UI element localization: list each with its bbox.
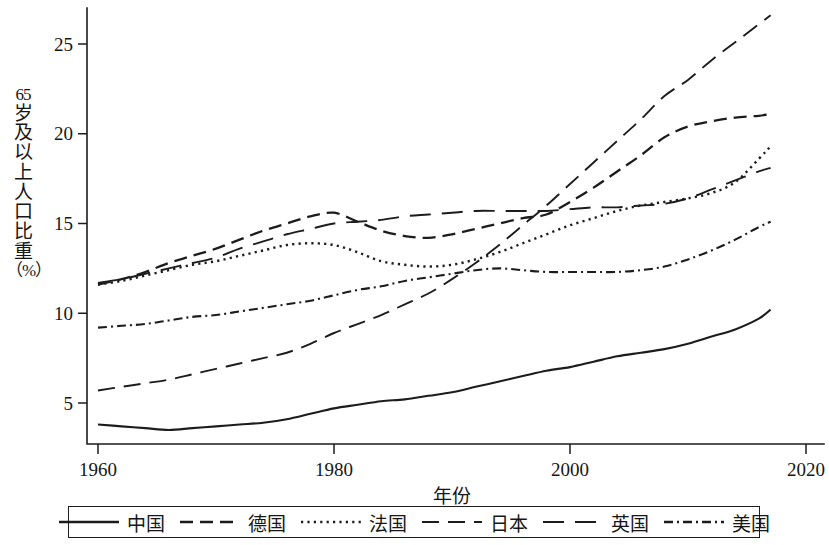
axis-lines [87,8,824,444]
y-tick-label: 25 [54,34,73,55]
chart-figure: 5101520251960198020002020年份 65岁及以上人口比重（%… [0,0,829,545]
y-axis-title-char: 重 [6,242,40,262]
legend-label: 中国 [127,509,165,536]
y-axis-title-char: 比 [6,222,40,242]
series-line-中国 [98,310,771,430]
x-axis-title: 年份 [433,486,471,507]
axis-labels: 5101520251960198020002020年份 [54,34,825,508]
legend-item-日本[interactable]: 日本 [421,509,528,536]
legend-label: 日本 [490,509,528,536]
chart-legend: 中国德国法国日本英国美国 [68,506,760,538]
legend-item-中国[interactable]: 中国 [58,509,165,536]
legend-swatch-longdash2 [542,515,604,529]
y-axis-title-char: （%） [6,262,40,280]
series-line-德国 [98,114,771,285]
x-tick-label: 1980 [315,459,353,480]
legend-label: 法国 [369,509,407,536]
y-tick-label: 5 [64,393,74,414]
y-axis-title-char: 人 [6,183,40,203]
y-axis-title-char: 岁 [6,104,40,124]
legend-label: 美国 [732,509,770,536]
axes [78,8,824,454]
series-line-法国 [98,146,771,284]
legend-swatch-longdash [421,515,483,529]
legend-swatch-dotted [300,515,362,529]
legend-item-美国[interactable]: 美国 [663,509,770,536]
legend-label: 英国 [611,509,649,536]
y-axis-title-char: 上 [6,163,40,183]
y-tick-label: 10 [54,303,73,324]
legend-swatch-dashed [179,515,241,529]
y-axis-title-char: 65 [6,86,40,104]
y-tick-label: 15 [54,213,73,234]
legend-item-英国[interactable]: 英国 [542,509,649,536]
legend-label: 德国 [248,509,286,536]
x-tick-label: 2020 [787,459,825,480]
y-tick-label: 20 [54,123,73,144]
y-axis-title-char: 口 [6,202,40,222]
legend-swatch-dashdot [663,515,725,529]
x-tick-label: 1960 [79,459,117,480]
x-tick-label: 2000 [551,459,589,480]
y-axis-title: 65岁及以上人口比重（%） [6,86,40,279]
chart-canvas: 5101520251960198020002020年份 [0,0,829,545]
y-axis-title-char: 以 [6,143,40,163]
legend-item-德国[interactable]: 德国 [179,509,286,536]
legend-item-法国[interactable]: 法国 [300,509,407,536]
legend-swatch-solid [58,515,120,529]
series-lines [98,15,771,430]
y-axis-title-char: 及 [6,123,40,143]
